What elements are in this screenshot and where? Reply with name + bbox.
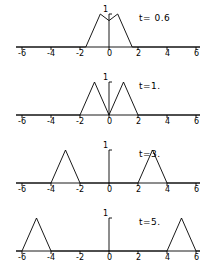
plot-panel-t5: -6 -4 -2 0 2 4 6 1 t=5.	[0, 204, 204, 272]
x-tick-label-plus2: 2	[136, 253, 141, 262]
x-tick-label-plus6: 6	[194, 117, 199, 126]
x-tick-label-minus2: -2	[76, 253, 84, 262]
plot-canvas-t1	[0, 68, 204, 136]
x-tick-label-plus2: 2	[136, 185, 141, 194]
y-axis-unit-label: 1	[103, 141, 108, 150]
y-axis-unit-label: 1	[103, 73, 108, 82]
x-tick-label-zero: 0	[107, 185, 112, 194]
x-tick-label-plus2: 2	[136, 117, 141, 126]
x-tick-label-plus6: 6	[194, 253, 199, 262]
x-tick-label-minus4: -4	[47, 185, 55, 194]
x-tick-label-minus6: -6	[18, 49, 26, 58]
wave-curve	[16, 14, 200, 47]
x-tick-label-minus4: -4	[47, 253, 55, 262]
x-tick-label-minus6: -6	[18, 185, 26, 194]
x-tick-label-minus4: -4	[47, 49, 55, 58]
x-tick-label-plus4: 4	[165, 185, 170, 194]
x-tick-label-zero: 0	[107, 117, 112, 126]
y-axis-unit-label: 1	[103, 5, 108, 14]
y-axis-unit-label: 1	[103, 209, 108, 218]
time-annotation-label: t=5.	[139, 217, 161, 227]
plot-canvas-t06	[0, 0, 204, 68]
x-tick-label-plus4: 4	[165, 49, 170, 58]
time-annotation-label: t= 0.6	[139, 13, 170, 23]
x-tick-label-plus2: 2	[136, 49, 141, 58]
x-tick-label-minus2: -2	[76, 49, 84, 58]
time-annotation-label: t=3.	[139, 149, 161, 159]
wave-curve	[16, 82, 200, 115]
x-tick-label-minus6: -6	[18, 253, 26, 262]
plot-canvas-t5	[0, 204, 204, 272]
x-tick-label-plus6: 6	[194, 49, 199, 58]
x-tick-label-zero: 0	[107, 253, 112, 262]
wave-curve	[16, 150, 200, 183]
plot-canvas-t3	[0, 136, 204, 204]
x-tick-label-minus4: -4	[47, 117, 55, 126]
wave-evolution-figure: -6 -4 -2 0 2 4 6 1 t= 0.6 -6 -4 -2 0 2 4…	[0, 0, 204, 278]
x-tick-label-zero: 0	[107, 49, 112, 58]
x-tick-label-minus2: -2	[76, 185, 84, 194]
wave-curve	[16, 218, 200, 251]
plot-panel-t3: -6 -4 -2 0 2 4 6 1 t=3.	[0, 136, 204, 204]
plot-panel-t1: -6 -4 -2 0 2 4 6 1 t=1.	[0, 68, 204, 136]
plot-panel-t06: -6 -4 -2 0 2 4 6 1 t= 0.6	[0, 0, 204, 68]
x-tick-label-plus6: 6	[194, 185, 199, 194]
time-annotation-label: t=1.	[139, 81, 161, 91]
x-tick-label-minus6: -6	[18, 117, 26, 126]
x-tick-label-minus2: -2	[76, 117, 84, 126]
x-tick-label-plus4: 4	[165, 253, 170, 262]
x-tick-label-plus4: 4	[165, 117, 170, 126]
